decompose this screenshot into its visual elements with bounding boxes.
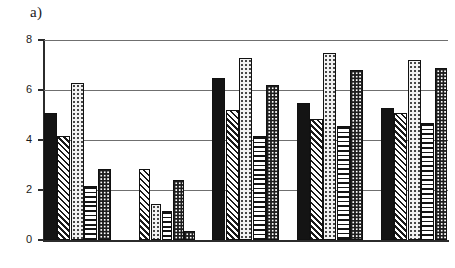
y-tick-8	[38, 39, 44, 41]
bar-group1-series4	[84, 186, 97, 240]
bar-group3-series4	[253, 136, 266, 240]
y-tick-6	[38, 89, 44, 91]
bar-group3-series1	[212, 78, 225, 241]
y-tick-0	[38, 239, 44, 241]
bar-group1-series5	[98, 169, 111, 240]
bar-group4-series1	[297, 103, 310, 241]
bar-group2-seriesextra	[184, 231, 195, 240]
y-tick-4	[38, 139, 44, 141]
bar-group4-series3	[323, 53, 336, 241]
y-tick-2	[38, 189, 44, 191]
bar-group5-series5	[435, 68, 448, 241]
bar-group5-series2	[394, 113, 407, 241]
bar-group2-series2	[139, 169, 150, 240]
bar-group4-series5	[350, 70, 363, 240]
x-axis-line	[43, 240, 449, 242]
bar-group2-series3	[151, 204, 162, 240]
bar-group1-series2	[57, 136, 70, 240]
bar-group5-series1	[381, 108, 394, 241]
y-tick-label-8: 8	[8, 34, 32, 45]
bar-group2-series5	[173, 180, 184, 240]
bar-group3-series5	[266, 85, 279, 240]
y-tick-label-2: 2	[8, 184, 32, 195]
bar-group2-series4	[162, 211, 173, 240]
bar-group1-series1	[44, 113, 57, 241]
bar-group5-series4	[421, 123, 434, 241]
y-tick-label-0: 0	[8, 234, 32, 245]
bar-group3-series2	[226, 110, 239, 240]
y-tick-label-4: 4	[8, 134, 32, 145]
bar-group3-series3	[239, 58, 252, 241]
bar-group4-series2	[310, 119, 323, 240]
panel-label: a)	[30, 4, 42, 21]
bar-group5-series3	[408, 60, 421, 240]
gridline-8	[44, 40, 448, 41]
bar-group4-series4	[337, 126, 350, 240]
plot-area	[44, 40, 448, 240]
figure-panel: a) 02468	[0, 0, 455, 268]
bar-group1-series3	[71, 83, 84, 241]
y-tick-label-6: 6	[8, 84, 32, 95]
